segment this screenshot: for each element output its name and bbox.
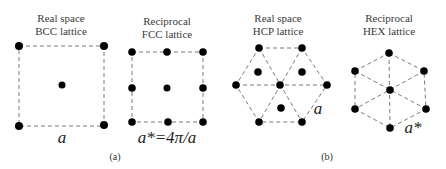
lattice-point	[420, 67, 428, 75]
lattice-point	[232, 81, 240, 89]
lattice-point	[15, 42, 23, 50]
caption-a: (a)	[109, 151, 120, 163]
lattice-point	[422, 105, 430, 113]
hcp-lattice-constant: a	[314, 99, 323, 118]
lattice-point	[386, 86, 394, 94]
lattice-point	[298, 118, 306, 126]
lattice-point	[164, 85, 171, 92]
body-center-point	[59, 82, 66, 89]
lattice-point	[164, 118, 172, 126]
lattice-point	[128, 118, 136, 126]
fcc-title-line1: Reciprocal	[143, 15, 191, 27]
hex-title-line1: Reciprocal	[365, 12, 413, 24]
lattice-point	[255, 118, 263, 126]
fcc-lattice: Reciprocal FCC lattice a*=4π/a	[128, 15, 207, 147]
hcp-lattice: Real space HCP lattice a	[232, 12, 331, 126]
interior-point	[277, 104, 285, 112]
lattice-point	[298, 44, 306, 52]
lattice-point	[128, 48, 136, 56]
lattice-point	[323, 81, 331, 89]
lattice-point	[100, 121, 108, 129]
interior-point	[254, 68, 262, 76]
hcp-title-line2: HCP lattice	[253, 25, 304, 37]
lattice-point	[199, 118, 207, 126]
lattice-point	[255, 44, 263, 52]
lattice-point	[385, 49, 393, 57]
hex-title-line2: HEX lattice	[363, 25, 415, 37]
lattice-point	[128, 84, 136, 92]
lattice-point	[163, 48, 171, 56]
fcc-lattice-constant: a*=4π/a	[138, 128, 197, 147]
caption-b: (b)	[321, 151, 333, 163]
lattice-point	[100, 42, 108, 50]
lattice-point	[351, 105, 359, 113]
lattice-point	[386, 124, 394, 132]
lattice-point	[276, 81, 284, 89]
bcc-lattice: Real space BCC lattice a	[15, 12, 108, 147]
hex-lattice: Reciprocal HEX lattice a*	[351, 12, 430, 137]
lattice-point	[199, 48, 207, 56]
bcc-title-line2: BCC lattice	[35, 25, 87, 37]
hcp-title-line1: Real space	[254, 12, 301, 24]
bcc-title-line1: Real space	[37, 12, 84, 24]
lattice-diagram: Real space BCC lattice a Reciprocal FCC …	[0, 0, 446, 169]
interior-point	[298, 68, 306, 76]
bcc-lattice-constant: a	[58, 128, 67, 147]
hex-lattice-constant: a*	[405, 118, 423, 137]
lattice-point	[15, 122, 23, 130]
lattice-point	[351, 67, 359, 75]
fcc-title-line2: FCC lattice	[142, 28, 193, 40]
lattice-point	[199, 84, 207, 92]
